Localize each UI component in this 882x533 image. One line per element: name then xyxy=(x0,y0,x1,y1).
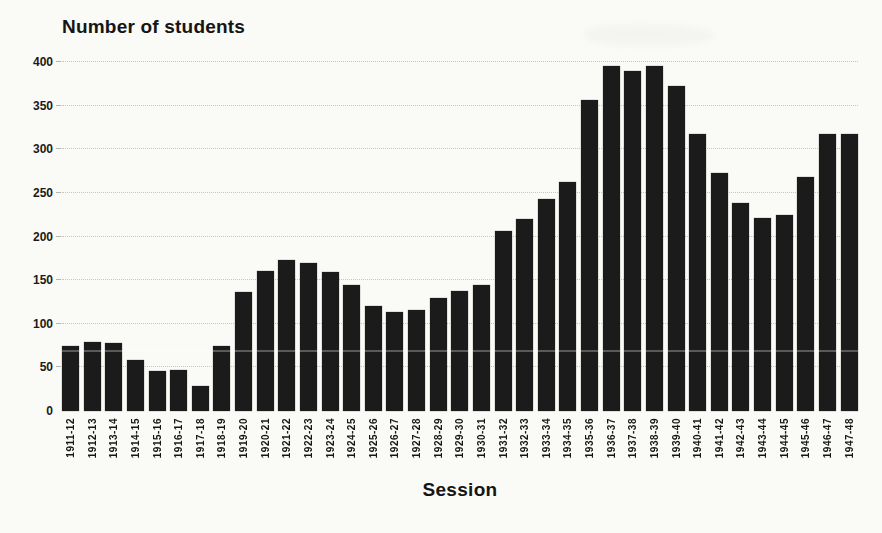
bar-1916-17 xyxy=(170,370,187,411)
x-tick-label-1920-21: 1920-21 xyxy=(260,418,271,458)
bar-1932-33 xyxy=(516,219,533,411)
bar-1912-13 xyxy=(84,342,101,411)
x-tick-slot: 1932-33 xyxy=(516,415,533,458)
y-axis-labels: 050100150200250300350400 xyxy=(0,62,53,411)
y-tick-mark xyxy=(56,323,61,324)
x-tick-label-1932-33: 1932-33 xyxy=(519,418,530,458)
x-tick-label-1930-31: 1930-31 xyxy=(476,418,487,458)
y-tick-label-400: 400 xyxy=(33,55,53,69)
x-tick-slot: 1924-25 xyxy=(343,415,360,458)
bar-1938-39 xyxy=(646,66,663,411)
y-tick-label-0: 0 xyxy=(46,404,53,418)
x-tick-label-1943-44: 1943-44 xyxy=(757,418,768,458)
bar-1918-19 xyxy=(213,346,230,411)
x-tick-slot: 1919-20 xyxy=(235,415,252,458)
x-tick-label-1916-17: 1916-17 xyxy=(173,418,184,458)
bar-1914-15 xyxy=(127,360,144,411)
x-tick-label-1923-24: 1923-24 xyxy=(325,418,336,458)
x-tick-label-1921-22: 1921-22 xyxy=(281,418,292,458)
bar-1921-22 xyxy=(278,260,295,411)
scan-smudge-artifact xyxy=(585,24,715,46)
x-tick-slot: 1931-32 xyxy=(495,415,512,458)
y-tick-mark xyxy=(56,192,61,193)
x-tick-slot: 1912-13 xyxy=(84,415,101,458)
x-tick-label-1945-46: 1945-46 xyxy=(800,418,811,458)
x-tick-slot: 1945-46 xyxy=(797,415,814,458)
x-tick-label-1935-36: 1935-36 xyxy=(584,418,595,458)
y-tick-label-150: 150 xyxy=(33,273,53,287)
y-tick-mark xyxy=(56,366,61,367)
x-tick-label-1918-19: 1918-19 xyxy=(216,418,227,458)
x-tick-slot: 1921-22 xyxy=(278,415,295,458)
bar-1926-27 xyxy=(386,312,403,411)
plot-wrap: 050100150200250300350400 xyxy=(0,62,882,411)
bar-1946-47 xyxy=(819,134,836,411)
y-tick-label-200: 200 xyxy=(33,230,53,244)
x-tick-slot: 1947-48 xyxy=(841,415,858,458)
x-tick-label-1933-34: 1933-34 xyxy=(541,418,552,458)
x-tick-slot: 1929-30 xyxy=(451,415,468,458)
x-tick-slot: 1930-31 xyxy=(473,415,490,458)
bar-1936-37 xyxy=(603,66,620,411)
bar-1934-35 xyxy=(559,182,576,411)
bar-1922-23 xyxy=(300,263,317,411)
x-tick-label-1939-40: 1939-40 xyxy=(671,418,682,458)
scan-band-artifact xyxy=(62,350,858,352)
x-tick-slot: 1944-45 xyxy=(776,415,793,458)
y-tick-label-300: 300 xyxy=(33,142,53,156)
x-tick-label-1938-39: 1938-39 xyxy=(649,418,660,458)
x-tick-slot: 1937-38 xyxy=(624,415,641,458)
x-tick-slot: 1942-43 xyxy=(732,415,749,458)
x-tick-slot: 1926-27 xyxy=(386,415,403,458)
bar-1937-38 xyxy=(624,71,641,411)
bar-1931-32 xyxy=(495,231,512,411)
x-tick-label-1941-42: 1941-42 xyxy=(714,418,725,458)
x-tick-label-1922-23: 1922-23 xyxy=(303,418,314,458)
x-tick-slot: 1920-21 xyxy=(257,415,274,458)
x-tick-label-1915-16: 1915-16 xyxy=(152,418,163,458)
x-tick-slot: 1933-34 xyxy=(538,415,555,458)
y-tick-mark xyxy=(56,236,61,237)
x-tick-slot: 1936-37 xyxy=(603,415,620,458)
y-tick-label-50: 50 xyxy=(40,360,53,374)
x-tick-slot: 1914-15 xyxy=(127,415,144,458)
x-tick-slot: 1925-26 xyxy=(365,415,382,458)
y-tick-mark xyxy=(56,279,61,280)
chart-title: Number of students xyxy=(62,16,245,38)
x-tick-label-1942-43: 1942-43 xyxy=(735,418,746,458)
x-tick-slot: 1918-19 xyxy=(213,415,230,458)
bar-1923-24 xyxy=(322,272,339,411)
x-tick-label-1913-14: 1913-14 xyxy=(108,418,119,458)
x-tick-label-1927-28: 1927-28 xyxy=(411,418,422,458)
bar-1942-43 xyxy=(732,203,749,411)
x-tick-slot: 1939-40 xyxy=(668,415,685,458)
y-tick-mark xyxy=(56,61,61,62)
y-tick-label-250: 250 xyxy=(33,186,53,200)
y-tick-label-350: 350 xyxy=(33,99,53,113)
y-tick-label-100: 100 xyxy=(33,317,53,331)
x-tick-slot: 1916-17 xyxy=(170,415,187,458)
bar-1944-45 xyxy=(776,215,793,411)
bar-1928-29 xyxy=(430,298,447,411)
x-tick-slot: 1913-14 xyxy=(105,415,122,458)
bar-1911-12 xyxy=(62,346,79,411)
x-tick-slot: 1946-47 xyxy=(819,415,836,458)
x-tick-slot: 1923-24 xyxy=(322,415,339,458)
x-axis-labels: 1911-121912-131913-141914-151915-161916-… xyxy=(62,415,858,473)
x-tick-slot: 1915-16 xyxy=(149,415,166,458)
x-tick-label-1919-20: 1919-20 xyxy=(238,418,249,458)
bar-1943-44 xyxy=(754,218,771,411)
x-tick-label-1940-41: 1940-41 xyxy=(692,418,703,458)
bar-1915-16 xyxy=(149,371,166,411)
x-tick-label-1929-30: 1929-30 xyxy=(454,418,465,458)
x-tick-label-1926-27: 1926-27 xyxy=(389,418,400,458)
x-tick-label-1931-32: 1931-32 xyxy=(498,418,509,458)
x-tick-slot: 1938-39 xyxy=(646,415,663,458)
bar-1920-21 xyxy=(257,271,274,411)
bar-1925-26 xyxy=(365,306,382,411)
bar-1933-34 xyxy=(538,199,555,411)
y-tick-mark xyxy=(56,148,61,149)
bar-1924-25 xyxy=(343,285,360,412)
x-tick-label-1934-35: 1934-35 xyxy=(562,418,573,458)
x-tick-slot: 1940-41 xyxy=(689,415,706,458)
